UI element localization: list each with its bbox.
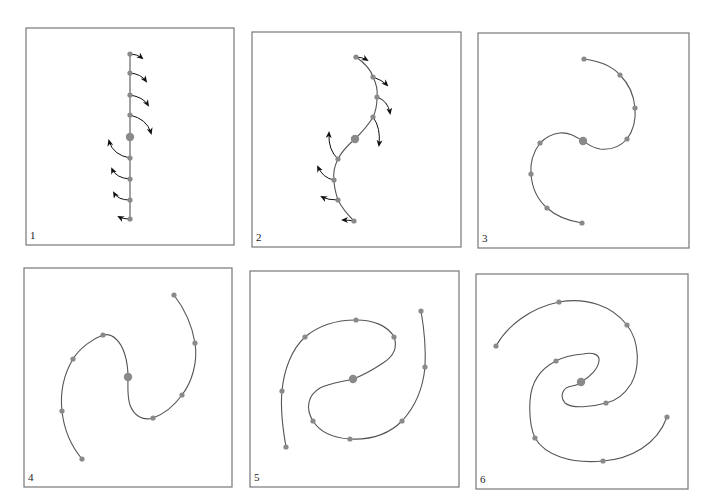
particle-dot bbox=[418, 308, 423, 313]
particle-dot bbox=[335, 156, 340, 161]
particle-dot bbox=[70, 356, 75, 361]
particle-dot bbox=[127, 92, 132, 97]
panel-number-label: 1 bbox=[30, 229, 36, 241]
particle-dot bbox=[127, 70, 132, 75]
center-nucleus-dot bbox=[579, 137, 587, 145]
particle-dot bbox=[127, 176, 132, 181]
particle-dot bbox=[581, 56, 586, 61]
particle-dot bbox=[79, 456, 84, 461]
particle-dot bbox=[493, 343, 498, 348]
particle-dot bbox=[347, 436, 352, 441]
panel-number-label: 6 bbox=[480, 473, 486, 485]
particle-dot bbox=[127, 112, 132, 117]
particle-dot bbox=[310, 418, 315, 423]
center-nucleus-dot bbox=[126, 133, 134, 141]
panel-6 bbox=[476, 274, 688, 489]
particle-dot bbox=[283, 444, 288, 449]
panel-5 bbox=[250, 271, 459, 487]
particle-dot bbox=[351, 218, 356, 223]
center-nucleus-dot bbox=[124, 373, 132, 381]
particle-dot bbox=[150, 415, 155, 420]
panel-1 bbox=[26, 28, 234, 245]
panel-3 bbox=[478, 33, 689, 248]
particle-dot bbox=[600, 458, 605, 463]
particle-dot bbox=[603, 400, 608, 405]
particle-dot bbox=[335, 197, 340, 202]
particle-dot bbox=[370, 114, 375, 119]
particle-dot bbox=[556, 299, 561, 304]
particle-dot bbox=[528, 171, 533, 176]
particle-dot bbox=[391, 334, 396, 339]
six-panel-spiral-diagram bbox=[0, 0, 703, 498]
center-nucleus-dot bbox=[349, 375, 357, 383]
particle-dot bbox=[579, 220, 584, 225]
particle-dot bbox=[302, 334, 307, 339]
particle-dot bbox=[624, 136, 629, 141]
particle-dot bbox=[100, 332, 105, 337]
panel-number-label: 2 bbox=[256, 231, 262, 243]
particle-dot bbox=[179, 392, 184, 397]
particle-dot bbox=[353, 54, 358, 59]
particle-dot bbox=[279, 388, 284, 393]
panel-number-label: 4 bbox=[28, 471, 34, 483]
particle-dot bbox=[127, 155, 132, 160]
particle-dot bbox=[171, 292, 176, 297]
particle-dot bbox=[127, 51, 132, 56]
particle-dot bbox=[127, 216, 132, 221]
particle-dot bbox=[59, 408, 64, 413]
particle-dot bbox=[331, 177, 336, 182]
particle-dot bbox=[624, 322, 629, 327]
panel-4 bbox=[24, 268, 232, 487]
particle-dot bbox=[553, 358, 558, 363]
panel-number-label: 5 bbox=[254, 471, 260, 483]
particle-dot bbox=[544, 205, 549, 210]
particle-dot bbox=[537, 140, 542, 145]
center-nucleus-dot bbox=[351, 135, 359, 143]
particle-dot bbox=[422, 364, 427, 369]
particle-dot bbox=[617, 72, 622, 77]
center-nucleus-dot bbox=[577, 378, 585, 386]
panel-2 bbox=[252, 32, 461, 247]
particle-dot bbox=[127, 197, 132, 202]
panel-number-label: 3 bbox=[482, 232, 488, 244]
particle-dot bbox=[374, 94, 379, 99]
particle-dot bbox=[192, 340, 197, 345]
particle-dot bbox=[532, 435, 537, 440]
particle-dot bbox=[664, 414, 669, 419]
particle-dot bbox=[632, 105, 637, 110]
particle-dot bbox=[399, 418, 404, 423]
particle-dot bbox=[370, 74, 375, 79]
particle-dot bbox=[353, 317, 358, 322]
